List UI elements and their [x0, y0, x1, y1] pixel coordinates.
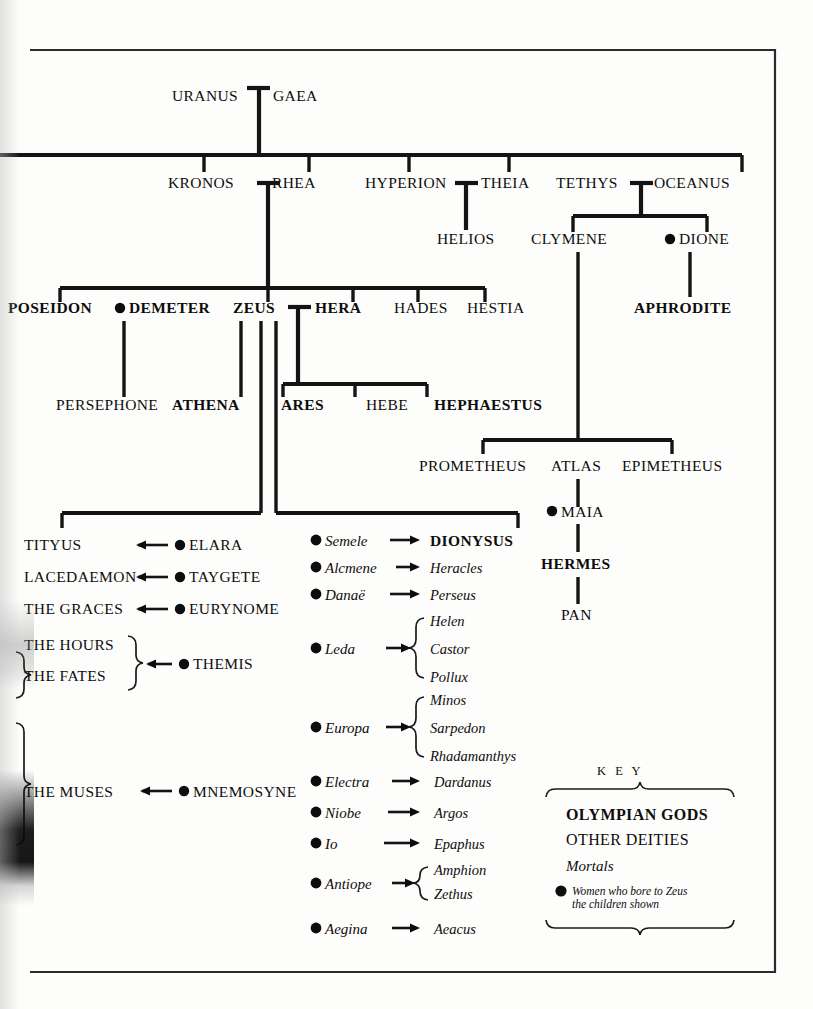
family-tree-svg: URANUS GAEA KRONOS RHEA HYPERION THEIA T…: [0, 0, 813, 1009]
child-minos: Minos: [429, 692, 467, 708]
arrow-electra-dardanus: [392, 777, 420, 786]
node-prometheus: PROMETHEUS: [419, 457, 526, 474]
node-kronos: KRONOS: [168, 174, 234, 191]
consort-dot-taygete: [175, 572, 185, 582]
node-hestia: HESTIA: [467, 299, 525, 316]
mother-leda: Leda: [324, 641, 355, 657]
node-oceanus: OCEANUS: [654, 174, 730, 191]
consort-dot-eurynome: [175, 604, 185, 614]
consort-dot-elara: [175, 540, 185, 550]
node-dione: DIONE: [679, 230, 729, 247]
consort-dot-dione: [665, 234, 675, 244]
node-hera: HERA: [315, 299, 362, 316]
key-other-deities: OTHER DEITIES: [566, 831, 689, 848]
node-pan: PAN: [561, 606, 592, 623]
mother-io: Io: [324, 836, 338, 852]
node-maia: MAIA: [561, 503, 604, 520]
mother-danae: Danaë: [324, 587, 365, 603]
consort-dot-leda: [311, 643, 322, 654]
consort-dot-antiope: [311, 878, 322, 889]
arrow-europa-children: [386, 723, 411, 732]
node-helios: HELIOS: [437, 230, 495, 247]
child-the-fates: THE FATES: [24, 667, 106, 684]
brace-leda-children: [409, 618, 424, 678]
node-demeter: DEMETER: [129, 299, 211, 316]
consort-dot-themis: [179, 659, 189, 669]
child-dionysus: DIONYSUS: [430, 532, 513, 549]
brace-antiope-children: [413, 867, 428, 900]
mother-electra: Electra: [324, 774, 369, 790]
arrow-aegina-aeacus: [392, 924, 420, 933]
child-epaphus: Epaphus: [433, 836, 485, 852]
arrow-taygete-lacedaemon: [136, 573, 168, 582]
child-the-graces: THE GRACES: [24, 600, 123, 617]
arrow-semele-dionysus: [390, 536, 420, 545]
key-brace-top: [546, 782, 734, 797]
node-theia: THEIA: [481, 174, 530, 191]
consort-dot-europa: [311, 722, 322, 733]
node-uranus: URANUS: [172, 87, 238, 104]
node-hebe: HEBE: [366, 396, 408, 413]
arrow-elara-tityus: [136, 541, 168, 550]
child-zethus: Zethus: [434, 886, 473, 902]
key-title: K E Y: [597, 764, 643, 778]
node-ares: ARES: [281, 396, 324, 413]
node-athena: ATHENA: [172, 396, 240, 413]
mother-europa: Europa: [324, 720, 369, 736]
arrow-antiope-children: [392, 879, 415, 888]
child-perseus: Perseus: [429, 587, 476, 603]
node-atlas: ATLAS: [551, 457, 601, 474]
node-hades: HADES: [394, 299, 448, 316]
key-brace-bottom: [546, 920, 734, 935]
consort-dot-aegina: [311, 923, 322, 934]
child-rhadamanthys: Rhadamanthys: [429, 748, 517, 764]
child-tityus: TITYUS: [24, 536, 82, 553]
consort-dot-niobe: [311, 807, 322, 818]
child-pollux: Pollux: [429, 669, 468, 685]
consort-dot-maia: [547, 506, 557, 516]
child-castor: Castor: [430, 641, 470, 657]
child-argos: Argos: [433, 805, 468, 821]
consort-dot-mnemosyne: [179, 786, 189, 796]
consort-elara: ELARA: [189, 536, 243, 553]
node-clymene: CLYMENE: [531, 230, 607, 247]
node-hyperion: HYPERION: [365, 174, 447, 191]
arrow-eurynome-graces: [136, 605, 168, 614]
node-zeus: ZEUS: [233, 299, 275, 316]
mother-aegina: Aegina: [324, 921, 368, 937]
key-mortals: Mortals: [565, 858, 614, 874]
node-epimetheus: EPIMETHEUS: [622, 457, 722, 474]
brace-europa-children: [409, 697, 424, 757]
arrow-mnemosyne-muses: [140, 787, 172, 796]
child-amphion: Amphion: [433, 862, 486, 878]
child-helen: Helen: [429, 613, 465, 629]
consort-dot-danae: [311, 589, 322, 600]
consort-dot-electra: [311, 776, 322, 787]
brace-themis-children: [128, 636, 143, 690]
consort-eurynome: EURYNOME: [189, 600, 279, 617]
consort-taygete: TAYGETE: [189, 568, 261, 585]
mother-antiope: Antiope: [324, 876, 372, 892]
node-aphrodite: APHRODITE: [634, 299, 731, 316]
node-poseidon: POSEIDON: [8, 299, 92, 316]
mother-semele: Semele: [325, 533, 368, 549]
mother-alcmene: Alcmene: [324, 560, 377, 576]
arrow-leda-children: [386, 644, 411, 653]
key-women-line-2: the children shown: [572, 898, 659, 910]
arrow-io-epaphus: [384, 839, 420, 848]
consort-dot-alcmene: [311, 562, 322, 573]
arrow-themis-children: [146, 660, 172, 669]
arrow-alcmene-heracles: [396, 563, 420, 572]
node-gaea: GAEA: [273, 87, 318, 104]
consort-dot-semele: [311, 535, 322, 546]
child-sarpedon: Sarpedon: [430, 720, 486, 736]
key-women-line-1: Women who bore to Zeus: [572, 885, 688, 897]
child-lacedaemon: LACEDAEMON: [24, 568, 137, 585]
node-persephone: PERSEPHONE: [56, 396, 158, 413]
consort-dot-demeter: [115, 303, 125, 313]
child-heracles: Heracles: [429, 560, 483, 576]
diagram-canvas: URANUS GAEA KRONOS RHEA HYPERION THEIA T…: [0, 0, 813, 1009]
child-aeacus: Aeacus: [433, 921, 476, 937]
key-olympian-gods: OLYMPIAN GODS: [566, 806, 708, 823]
child-the-muses: THE MUSES: [24, 783, 113, 800]
